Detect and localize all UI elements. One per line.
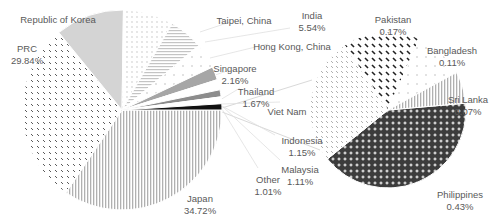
label-percent: 0.07%: [448, 106, 488, 118]
data-label-republic-of-korea: Republic of Korea: [20, 14, 96, 26]
data-label-japan: Japan34.72%: [184, 193, 216, 217]
leader-line: [205, 28, 290, 42]
label-name: Viet Nam: [268, 106, 307, 118]
data-label-pakistan: Pakistan0.17%: [375, 14, 411, 38]
data-label-hong-kong-china: Hong Kong, China: [253, 41, 331, 53]
label-name: Other: [255, 174, 282, 186]
data-label-india: India5.54%: [299, 10, 326, 34]
label-name: Philippines: [437, 189, 483, 201]
label-name: Sri Lanka: [448, 94, 488, 106]
label-name: Malaysia: [281, 164, 319, 176]
label-percent: 0.43%: [437, 201, 483, 213]
data-label-malaysia: Malaysia1.11%: [281, 164, 319, 188]
label-name: Bangladesh: [427, 45, 477, 57]
label-name: Singapore: [213, 63, 256, 75]
data-label-bangladesh: Bangladesh0.11%: [427, 45, 477, 69]
label-name: Taipei, China: [217, 15, 272, 27]
label-percent: 0.11%: [427, 57, 477, 69]
data-label-indonesia: Indonesia1.15%: [281, 135, 322, 159]
data-label-taipei-china: Taipei, China: [217, 15, 272, 27]
label-percent: 34.72%: [184, 205, 216, 217]
label-name: PRC: [11, 43, 43, 55]
label-percent: 5.54%: [299, 22, 326, 34]
label-name: Pakistan: [375, 14, 411, 26]
label-percent: 1.01%: [255, 186, 282, 198]
label-percent: 1.15%: [281, 147, 322, 159]
primary-pie: [22, 10, 222, 210]
label-name: India: [299, 10, 326, 22]
label-name: Republic of Korea: [20, 14, 96, 26]
data-label-prc: PRC29.84%: [11, 43, 43, 67]
label-percent: 0.17%: [375, 26, 411, 38]
label-name: Hong Kong, China: [253, 41, 331, 53]
label-name: Japan: [184, 193, 216, 205]
data-label-sri-lanka: Sri Lanka0.07%: [448, 94, 488, 118]
label-percent: 1.11%: [281, 176, 319, 188]
data-label-singapore: Singapore2.16%: [213, 63, 256, 87]
label-percent: 29.84%: [11, 55, 43, 67]
data-label-philippines: Philippines0.43%: [437, 189, 483, 213]
label-name: Thailand: [238, 86, 274, 98]
data-label-other: Other1.01%: [255, 174, 282, 198]
data-label-viet-nam: Viet Nam: [268, 106, 307, 118]
label-name: Indonesia: [281, 135, 322, 147]
